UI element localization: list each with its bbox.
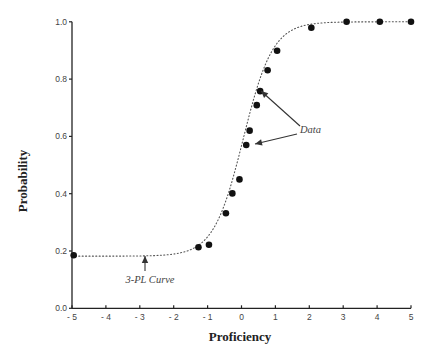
x-tick-label: 0: [239, 312, 244, 322]
y-tick-label: 0.2: [55, 246, 67, 256]
y-tick-label: 0.0: [55, 303, 67, 313]
arrowhead-icon: [142, 256, 148, 263]
x-tick-label: 1: [273, 312, 278, 322]
x-tick-label: 4: [375, 312, 380, 322]
data-point: [274, 47, 281, 54]
item-characteristic-chart: 0.00.20.40.60.81.0- 5- 4- 3- 2- 1012345 …: [0, 0, 430, 358]
data-annotation-label: Data: [299, 124, 321, 135]
y-tick-label: 0.4: [55, 189, 67, 199]
data-point: [253, 102, 260, 109]
x-tick-label: 3: [341, 312, 346, 322]
data-points: [70, 19, 414, 259]
data-point: [206, 241, 213, 248]
x-tick-label: - 4: [101, 312, 111, 322]
data-point: [229, 190, 236, 197]
y-tick-label: 1.0: [55, 17, 67, 27]
axes: 0.00.20.40.60.81.0- 5- 4- 3- 2- 1012345: [55, 17, 413, 323]
x-tick-label: 2: [307, 312, 312, 322]
y-axis-title: Probability: [15, 149, 30, 212]
curve-annotation-label: 3-PL Curve: [124, 274, 174, 285]
3pl-curve: [72, 22, 411, 256]
data-point: [343, 19, 350, 26]
data-point: [243, 142, 250, 149]
data-point: [408, 19, 415, 26]
arrowhead-icon: [255, 139, 263, 145]
data-point: [236, 176, 243, 183]
x-tick-label: 5: [409, 312, 414, 322]
data-point: [195, 244, 202, 251]
data-point: [223, 210, 230, 217]
x-axis-title: Proficiency: [209, 329, 272, 344]
y-tick-label: 0.6: [55, 131, 67, 141]
x-tick-label: - 2: [169, 312, 179, 322]
data-point: [377, 19, 384, 26]
x-tick-label: - 5: [67, 312, 77, 322]
data-point: [264, 67, 271, 74]
data-point: [70, 252, 77, 259]
data-point: [308, 25, 315, 32]
arrow-icon: [261, 91, 300, 126]
data-point: [246, 127, 253, 134]
x-tick-label: - 3: [135, 312, 145, 322]
x-tick-label: - 1: [203, 312, 213, 322]
y-tick-label: 0.8: [55, 74, 67, 84]
